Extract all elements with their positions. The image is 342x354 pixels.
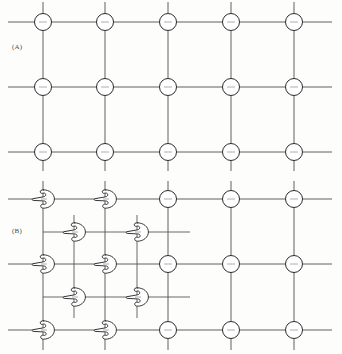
panel-b: [8, 181, 332, 350]
figure-container: (A) (B): [0, 0, 342, 354]
lattice-diagram-svg: [0, 0, 342, 354]
panel-a-label: (A): [12, 43, 22, 51]
panel-a: [8, 2, 332, 171]
panel-b-label: (B): [12, 227, 22, 235]
panel-b-comma-crosshairs: [41, 199, 141, 330]
